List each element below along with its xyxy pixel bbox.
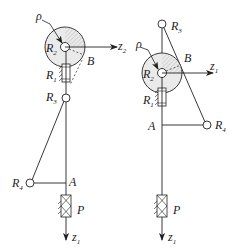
right-label-b: B <box>184 51 192 65</box>
right-label-r3: R3 <box>170 19 182 35</box>
mechanism-diagram: ρ R2 z2 B R1 R3 R4 A P z1 <box>0 0 237 249</box>
left-r4-joint <box>26 179 34 187</box>
left-label-z2: z2 <box>117 39 127 55</box>
left-label-a: A <box>68 175 77 189</box>
right-label-z-axis: z1 <box>209 59 218 75</box>
left-label-r4: R4 <box>11 176 23 192</box>
left-r3-joint <box>62 94 70 102</box>
right-r4-joint <box>203 121 211 129</box>
left-label-r1: R1 <box>45 68 57 84</box>
left-label-z1: z1 <box>71 230 80 246</box>
right-r3-joint <box>158 20 166 28</box>
left-diagonal-link <box>32 101 64 180</box>
right-label-p: P <box>172 203 181 217</box>
right-label-rho: ρ <box>135 37 142 51</box>
left-label-b: B <box>87 54 95 68</box>
left-figure: ρ R2 z2 B R1 R3 R4 A P z1 <box>11 9 127 246</box>
left-label-r3: R3 <box>45 90 57 106</box>
right-label-r4: R4 <box>214 118 226 134</box>
left-p-prismatic <box>58 195 71 217</box>
left-label-p: P <box>76 203 85 217</box>
right-p-prismatic <box>154 195 167 217</box>
right-label-r1: R1 <box>142 93 154 109</box>
right-label-a: A <box>147 119 156 133</box>
right-label-z1: z1 <box>167 230 176 246</box>
left-label-rho: ρ <box>35 9 42 23</box>
right-figure: R3 ρ R2 B z1 R1 A R4 P z1 <box>135 19 226 246</box>
